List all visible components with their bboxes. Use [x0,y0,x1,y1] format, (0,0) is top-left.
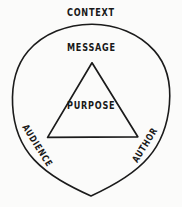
label-context-text: CONTEXT [67,7,115,18]
label-purpose: PURPOSE [0,100,182,111]
label-context: CONTEXT [0,7,182,18]
label-message: MESSAGE [0,42,182,53]
label-purpose-text: PURPOSE [67,100,115,111]
label-message-text: MESSAGE [67,42,116,53]
rhetorical-triangle-diagram: CONTEXT MESSAGE PURPOSE AUDIENCE AUTHOR [0,0,182,207]
